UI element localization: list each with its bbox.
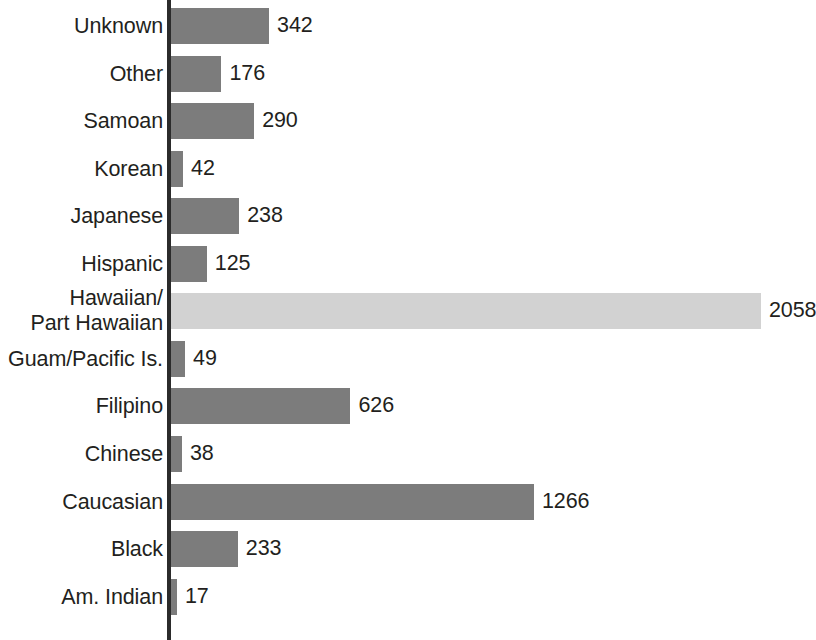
- category-label: Am. Indian: [61, 584, 163, 609]
- bar-chart: Unknown342Other176Samoan290Korean42Japan…: [0, 0, 816, 640]
- category-label: Hawaiian/ Part Hawaiian: [30, 286, 163, 336]
- bar-value-label: 176: [229, 63, 265, 85]
- bar: [171, 198, 239, 234]
- bar-value-label: 1266: [542, 491, 589, 513]
- bar-value-label: 38: [190, 443, 214, 465]
- category-label: Filipino: [96, 394, 163, 419]
- category-label: Japanese: [71, 204, 163, 229]
- category-label: Korean: [94, 156, 163, 181]
- bar: [171, 436, 182, 472]
- category-label: Unknown: [74, 14, 163, 39]
- bar: [171, 579, 177, 615]
- category-label: Black: [111, 537, 163, 562]
- category-label: Chinese: [85, 441, 163, 466]
- category-label: Samoan: [84, 109, 163, 134]
- bar: [171, 388, 350, 424]
- bar-value-label: 342: [277, 15, 313, 37]
- bar-value-label: 125: [215, 253, 251, 275]
- bar: [171, 151, 183, 187]
- bar-value-label: 233: [246, 538, 282, 560]
- bar-value-label: 238: [247, 205, 283, 227]
- bar: [171, 531, 238, 567]
- bar: [171, 484, 534, 520]
- category-label: Caucasian: [62, 489, 163, 514]
- bar-value-label: 42: [191, 158, 215, 180]
- bar: [171, 341, 185, 377]
- bar: [171, 246, 207, 282]
- bar: [171, 56, 221, 92]
- bar-value-label: 49: [193, 348, 217, 370]
- category-label: Other: [110, 61, 163, 86]
- bar-value-label: 626: [358, 396, 394, 418]
- bar-value-label: 2058: [769, 301, 816, 323]
- category-label: Hispanic: [81, 251, 163, 276]
- bar-value-label: 290: [262, 110, 298, 132]
- bar-highlighted: [171, 293, 761, 329]
- category-label: Guam/Pacific Is.: [8, 346, 163, 371]
- bar: [171, 8, 269, 44]
- bar: [171, 103, 254, 139]
- bar-value-label: 17: [185, 586, 209, 608]
